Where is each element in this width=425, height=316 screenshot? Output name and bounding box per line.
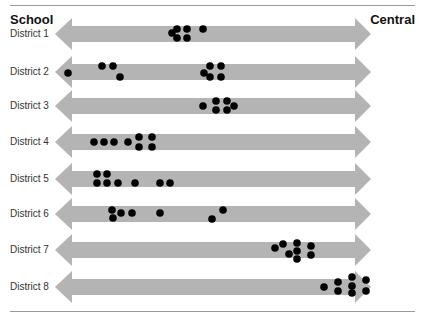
data-point	[320, 283, 328, 291]
data-point	[166, 179, 174, 187]
data-point	[90, 138, 98, 146]
data-point	[108, 206, 116, 214]
data-point	[173, 34, 181, 42]
data-point	[64, 69, 72, 77]
data-point	[173, 25, 181, 33]
data-point	[116, 73, 124, 81]
data-point	[307, 242, 315, 250]
data-point	[148, 133, 156, 141]
double-arrow-2	[55, 56, 371, 88]
data-point	[212, 97, 220, 105]
data-point	[124, 138, 132, 146]
data-point	[217, 62, 225, 70]
data-point	[199, 102, 207, 110]
data-point	[131, 179, 139, 187]
data-point	[223, 97, 231, 105]
data-point	[293, 239, 301, 247]
data-point	[217, 73, 225, 81]
dot-plot	[0, 0, 425, 316]
data-point	[148, 143, 156, 151]
data-point	[206, 62, 214, 70]
data-point	[183, 34, 191, 42]
data-point	[208, 215, 216, 223]
double-arrow-1	[55, 18, 371, 50]
data-point	[334, 287, 342, 295]
data-point	[285, 250, 293, 258]
data-point	[128, 209, 136, 217]
data-point	[362, 287, 370, 295]
data-point	[156, 179, 164, 187]
data-point	[103, 179, 111, 187]
double-arrow-7	[55, 234, 371, 266]
data-point	[293, 247, 301, 255]
data-point	[223, 106, 231, 114]
double-arrow-6	[55, 198, 371, 230]
data-point	[230, 102, 238, 110]
data-point	[199, 25, 207, 33]
data-point	[279, 240, 287, 248]
data-point	[93, 170, 101, 178]
double-arrow-5	[55, 163, 371, 195]
data-point	[135, 133, 143, 141]
data-point	[183, 25, 191, 33]
data-point	[117, 209, 125, 217]
data-point	[109, 214, 117, 222]
data-point	[362, 276, 370, 284]
data-point	[348, 289, 356, 297]
data-point	[219, 206, 227, 214]
data-point	[271, 244, 279, 252]
data-point	[110, 138, 118, 146]
data-point	[93, 179, 101, 187]
data-point	[334, 278, 342, 286]
data-point	[103, 170, 111, 178]
data-point	[135, 143, 143, 151]
data-point	[348, 282, 356, 290]
data-point	[206, 73, 214, 81]
data-point	[307, 251, 315, 259]
data-point	[212, 106, 220, 114]
data-point	[109, 62, 117, 70]
data-point	[98, 62, 106, 70]
data-point	[114, 179, 122, 187]
data-point	[100, 138, 108, 146]
double-arrow-3	[55, 90, 371, 122]
data-point	[293, 255, 301, 263]
data-point	[348, 273, 356, 281]
data-point	[156, 209, 164, 217]
